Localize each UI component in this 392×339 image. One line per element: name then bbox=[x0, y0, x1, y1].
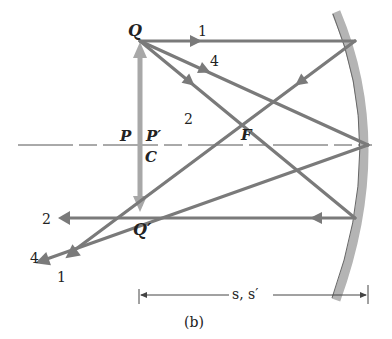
label-P-prime: P′ bbox=[145, 127, 161, 145]
ray-2-out-arrowhead bbox=[58, 211, 70, 225]
dimension-label: s, s′ bbox=[232, 286, 258, 302]
label-F: F bbox=[240, 126, 253, 144]
ray-2-reflected-arrowhead bbox=[310, 212, 322, 224]
label-ray-1-reflected: 1 bbox=[57, 269, 66, 285]
label-ray-4-incident: 4 bbox=[210, 53, 219, 69]
label-Q: Q bbox=[128, 21, 142, 40]
label-ray-1-incident: 1 bbox=[198, 23, 207, 39]
label-ray-4-reflected: 4 bbox=[30, 250, 39, 266]
ray-4-reflected bbox=[44, 145, 368, 260]
concave-mirror-diagram: Q Q′ P P′ C F 1 4 2 2 4 1 s, s′ (b) bbox=[0, 0, 392, 339]
dimension-arrow-right bbox=[360, 292, 367, 298]
label-P: P bbox=[119, 127, 132, 145]
dimension-arrow-left bbox=[140, 292, 147, 298]
ray-1-reflected bbox=[72, 41, 355, 252]
figure-caption: (b) bbox=[184, 314, 204, 330]
label-Q-prime: Q′ bbox=[133, 220, 152, 239]
label-ray-2-reflected: 2 bbox=[42, 211, 51, 227]
label-C: C bbox=[145, 148, 157, 166]
label-ray-2-incident: 2 bbox=[184, 111, 193, 127]
